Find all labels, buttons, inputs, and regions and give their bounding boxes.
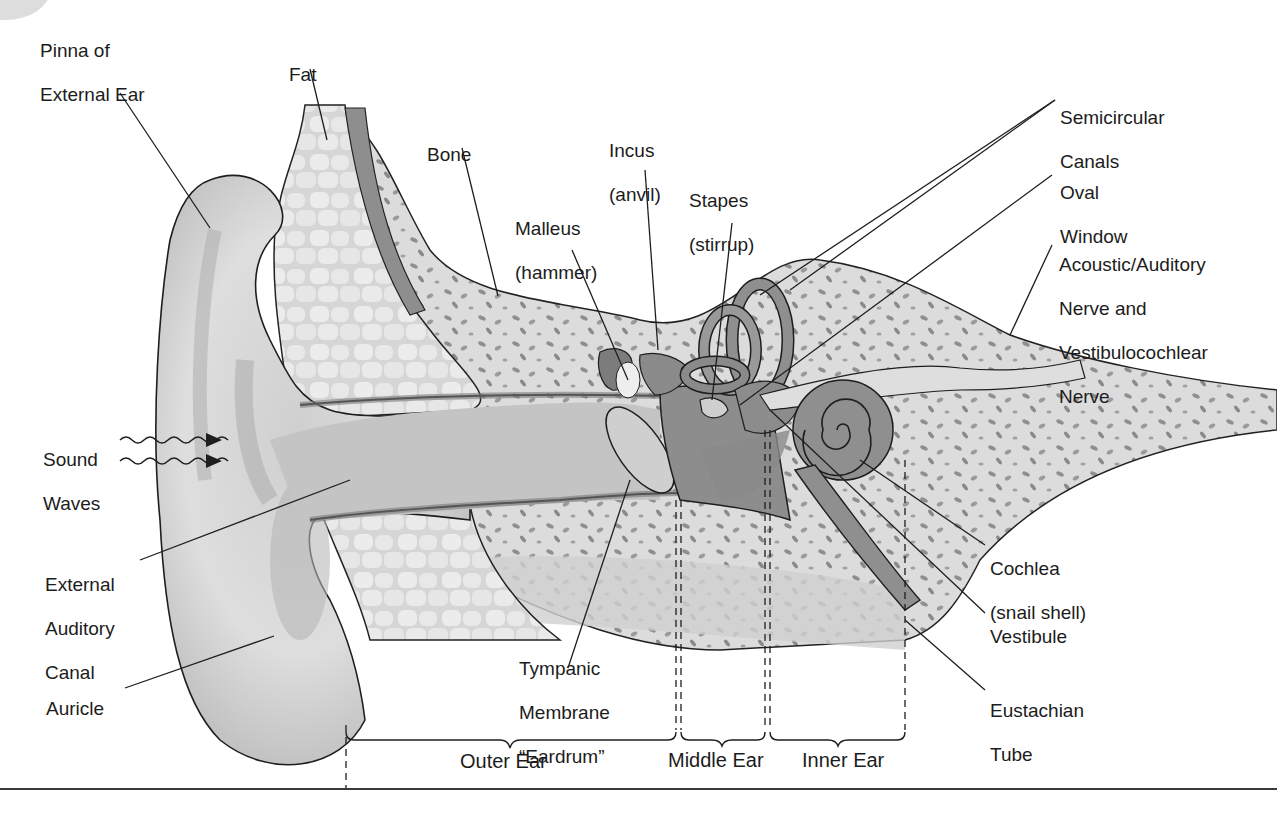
label-line: Fat xyxy=(289,64,316,86)
label-line: Malleus xyxy=(515,218,597,240)
label-line: (anvil) xyxy=(609,184,661,206)
label-line: Auditory xyxy=(45,618,115,640)
label-line: (stirrup) xyxy=(689,234,754,256)
label-sound-waves: Sound Waves xyxy=(43,427,100,537)
label-line: Vestibule xyxy=(990,626,1067,648)
label-line: Eustachian xyxy=(990,700,1084,722)
label-auricle: Auricle xyxy=(46,676,104,742)
label-line: Vestibulocochlear xyxy=(1059,342,1208,364)
region-label-outer-ear: Outer Ear xyxy=(460,750,547,773)
label-line: Bone xyxy=(427,144,471,166)
ear-anatomy-diagram: Pinna of External Ear Fat Bone Incus (an… xyxy=(0,0,1277,814)
label-line: External Ear xyxy=(40,84,145,106)
label-line: Nerve xyxy=(1059,386,1208,408)
label-pinna: Pinna of External Ear xyxy=(40,18,145,128)
bottom-rule-divider xyxy=(0,788,1277,790)
label-line: Acoustic/Auditory xyxy=(1059,254,1208,276)
label-line: (hammer) xyxy=(515,262,597,284)
label-line: Stapes xyxy=(689,190,754,212)
label-line: Auricle xyxy=(46,698,104,720)
label-line: Waves xyxy=(43,493,100,515)
region-label-middle-ear: Middle Ear xyxy=(668,749,764,772)
label-stapes: Stapes (stirrup) xyxy=(689,168,754,278)
label-bone: Bone xyxy=(427,122,471,188)
label-line: Tube xyxy=(990,744,1084,766)
label-malleus: Malleus (hammer) xyxy=(515,196,597,306)
label-line: Semicircular xyxy=(1060,107,1165,129)
label-line: Membrane xyxy=(519,702,610,724)
label-line: External xyxy=(45,574,115,596)
region-label-inner-ear: Inner Ear xyxy=(802,749,884,772)
label-line: Nerve and xyxy=(1059,298,1208,320)
label-line: Oval xyxy=(1060,182,1128,204)
cochlea xyxy=(793,380,893,480)
label-acoustic-nerve: Acoustic/Auditory Nerve and Vestibulococ… xyxy=(1059,232,1208,430)
label-line: Incus xyxy=(609,140,661,162)
label-line: Cochlea xyxy=(990,558,1086,580)
label-line: Sound xyxy=(43,449,100,471)
label-fat: Fat xyxy=(289,42,316,108)
label-line: Pinna of xyxy=(40,40,145,62)
region-braces xyxy=(346,732,905,748)
label-line: Tympanic xyxy=(519,658,610,680)
label-vestibule: Vestibule xyxy=(990,604,1067,670)
label-eustachian-tube: Eustachian Tube xyxy=(990,678,1084,788)
label-incus: Incus (anvil) xyxy=(609,118,661,228)
